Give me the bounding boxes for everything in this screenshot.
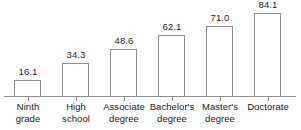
axis-label-line1: Bachelor's: [150, 101, 195, 112]
axis-label-line1: Ninth: [17, 101, 39, 112]
bar-value-label: 16.1: [4, 66, 52, 77]
bar-group-masters-degree[interactable]: 71.0: [196, 0, 244, 97]
bar-value-label: 71.0: [196, 12, 244, 23]
axis-label-line1: Associate: [103, 101, 145, 112]
axis-label-line1: Doctorate: [247, 101, 289, 112]
axis-label-line1: High: [66, 101, 86, 112]
axis-label-line2: school: [50, 113, 102, 125]
x-axis-labels: Ninth grade High school Associate degree…: [0, 101, 301, 130]
bar-ninth-grade[interactable]: [14, 80, 41, 97]
bar-high-school[interactable]: [62, 63, 89, 97]
bar-value-label: 62.1: [148, 21, 196, 32]
axis-label-doctorate: Doctorate: [242, 101, 294, 113]
plot-area: 16.1 34.3 48.6 62.1 71.0 84.1: [0, 0, 301, 97]
bar-group-ninth-grade[interactable]: 16.1: [4, 0, 52, 97]
axis-label-ninth-grade: Ninth grade: [2, 101, 54, 125]
bar-doctorate[interactable]: [254, 13, 281, 97]
axis-label-line2: grade: [2, 113, 54, 125]
bar-bachelors-degree[interactable]: [158, 35, 185, 97]
axis-label-high-school: High school: [50, 101, 102, 125]
axis-label-line2: degree: [194, 113, 246, 125]
axis-label-line1: Master's: [202, 101, 238, 112]
bar-associate-degree[interactable]: [110, 49, 137, 97]
axis-label-masters-degree: Master's degree: [194, 101, 246, 125]
bar-masters-degree[interactable]: [206, 26, 233, 97]
bar-group-high-school[interactable]: 34.3: [52, 0, 100, 97]
bar-group-doctorate[interactable]: 84.1: [244, 0, 292, 97]
bar-value-label: 48.6: [100, 35, 148, 46]
x-axis-line: [4, 96, 296, 97]
bar-group-associate-degree[interactable]: 48.6: [100, 0, 148, 97]
bar-value-label: 34.3: [52, 49, 100, 60]
axis-label-associate-degree: Associate degree: [98, 101, 150, 125]
axis-label-line2: degree: [98, 113, 150, 125]
bar-value-label: 84.1: [244, 0, 292, 10]
bar-group-bachelors-degree[interactable]: 62.1: [148, 0, 196, 97]
axis-label-bachelors-degree: Bachelor's degree: [146, 101, 198, 125]
bar-chart: 16.1 34.3 48.6 62.1 71.0 84.1: [0, 0, 301, 130]
axis-label-line2: degree: [146, 113, 198, 125]
